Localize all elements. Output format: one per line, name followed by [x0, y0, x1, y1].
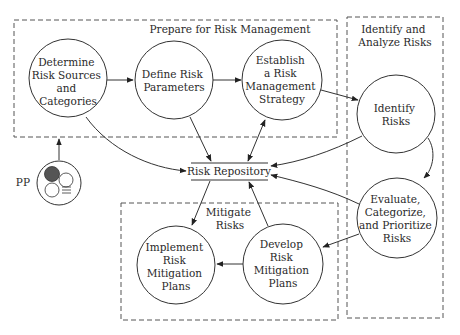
edge-identify-evaluate — [424, 138, 433, 178]
risk-repository[interactable]: Risk Repository — [187, 163, 271, 180]
svg-text:Define Risk Parameters: Define Risk Parameters — [142, 68, 206, 93]
group-identify-box — [347, 17, 443, 318]
pp-label: PP — [16, 176, 30, 188]
node-evaluate[interactable]: Evaluate, Categorize, and Prioritize Ris… — [357, 178, 437, 258]
node-identify[interactable]: Identify Risks — [357, 75, 435, 153]
edge-develop-repository — [249, 182, 268, 226]
node-develop[interactable]: Develop Risk Mitigation Plans — [243, 224, 323, 304]
node-implement[interactable]: Implement Risk Mitigation Plans — [137, 226, 215, 304]
edge-define-repository — [190, 117, 211, 161]
edge-establish-identify — [321, 90, 358, 100]
group-mitigate-title: Mitigate Risks — [206, 206, 254, 231]
risk-management-diagram: Prepare for Risk Management Identify and… — [0, 0, 460, 335]
edge-establish-repository — [248, 120, 265, 161]
group-prepare-title: Prepare for Risk Management — [150, 23, 312, 35]
node-establish[interactable]: Establish a Risk Management Strategy — [242, 40, 322, 120]
svg-text:Risk Repository: Risk Repository — [187, 165, 271, 177]
node-define[interactable]: Define Risk Parameters — [135, 41, 213, 119]
edge-evaluate-develop — [323, 234, 359, 247]
node-determine[interactable]: Determine Risk Sources and Categories — [29, 39, 107, 117]
group-identify-title: Identify and Analyze Risks — [357, 23, 431, 48]
edge-identify-repository — [271, 136, 362, 166]
edge-determine-repository — [86, 117, 186, 171]
edge-evaluate-repository — [271, 175, 359, 204]
pp-icon[interactable] — [37, 161, 81, 205]
